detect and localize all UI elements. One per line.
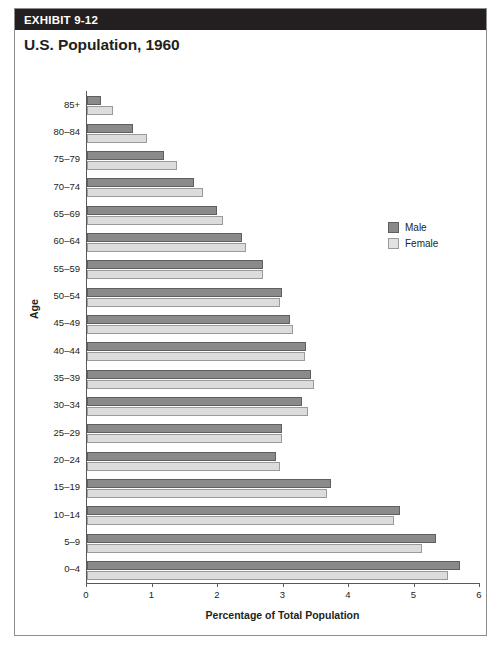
x-axis-tick: [217, 583, 218, 587]
y-axis-tick-label: 25–29: [54, 428, 80, 438]
bar-male: [87, 424, 282, 433]
y-axis-tick-label: 0–4: [64, 564, 80, 574]
y-axis-tick-label: 35–39: [54, 373, 80, 383]
y-axis-tick-label: 70–74: [54, 182, 80, 192]
x-axis-tick-label: 5: [411, 589, 416, 600]
x-axis-tick: [86, 583, 87, 587]
y-axis-tick-label: 15–19: [54, 482, 80, 492]
bar-male: [87, 233, 242, 242]
legend-label: Male: [405, 223, 427, 233]
bar-group: [87, 474, 479, 501]
bar-male: [87, 397, 302, 406]
plot-area: 0–45–910–1415–1920–2425–2930–3435–3940–4…: [86, 91, 479, 583]
x-axis-tick-label: 6: [476, 589, 481, 600]
bar-female: [87, 270, 263, 279]
legend-swatch-icon: [388, 238, 399, 249]
y-axis-title: Age: [28, 299, 40, 319]
y-axis-tick-label: 20–24: [54, 455, 80, 465]
bar-male: [87, 288, 282, 297]
x-axis-tick: [348, 583, 349, 587]
y-axis-tick-label: 75–79: [54, 154, 80, 164]
bar-female: [87, 161, 177, 170]
bar-group: [87, 446, 479, 473]
legend-item: Female: [388, 238, 438, 249]
chart-legend: MaleFemale: [388, 222, 438, 254]
bar-group: [87, 501, 479, 528]
bar-group: [87, 255, 479, 282]
bar-male: [87, 206, 217, 215]
y-axis-tick-label: 85+: [64, 100, 80, 110]
x-axis-tick-label: 3: [280, 589, 285, 600]
bar-female: [87, 298, 280, 307]
bar-male: [87, 370, 311, 379]
bar-group: [87, 91, 479, 118]
y-axis-tick-label: 50–54: [54, 291, 80, 301]
x-axis-title: Percentage of Total Population: [86, 609, 479, 621]
x-axis-tick: [414, 583, 415, 587]
bar-male: [87, 534, 436, 543]
bar-female: [87, 407, 308, 416]
bar-group: [87, 146, 479, 173]
bar-group: [87, 392, 479, 419]
y-axis-tick-label: 55–59: [54, 264, 80, 274]
bar-group: [87, 310, 479, 337]
bar-group: [87, 337, 479, 364]
x-axis-tick: [152, 583, 153, 587]
y-axis-tick-label: 5–9: [64, 537, 80, 547]
legend-label: Female: [405, 239, 438, 249]
bar-group: [87, 419, 479, 446]
bar-male: [87, 479, 331, 488]
bar-female: [87, 325, 293, 334]
chart-plot-wrapper: 0–45–910–1415–1920–2425–2930–3435–3940–4…: [15, 9, 486, 635]
bar-male: [87, 452, 276, 461]
bar-male: [87, 151, 164, 160]
bar-female: [87, 352, 305, 361]
bar-group: [87, 528, 479, 555]
bar-female: [87, 516, 394, 525]
bar-female: [87, 106, 113, 115]
bar-male: [87, 178, 194, 187]
bar-female: [87, 544, 422, 553]
bar-male: [87, 561, 460, 570]
bar-group: [87, 173, 479, 200]
bar-male: [87, 96, 101, 105]
exhibit-card: EXHIBIT 9-12 U.S. Population, 1960 0–45–…: [14, 8, 487, 636]
x-axis-tick-label: 2: [214, 589, 219, 600]
y-axis-tick-label: 30–34: [54, 400, 80, 410]
bar-female: [87, 380, 314, 389]
bar-group: [87, 118, 479, 145]
bar-female: [87, 489, 327, 498]
y-axis-tick-label: 80–84: [54, 127, 80, 137]
bar-male: [87, 506, 400, 515]
bar-group: [87, 282, 479, 309]
bar-male: [87, 260, 263, 269]
y-axis-tick-label: 65–69: [54, 209, 80, 219]
bar-male: [87, 342, 306, 351]
bar-female: [87, 134, 147, 143]
bar-male: [87, 124, 133, 133]
x-axis-tick-label: 4: [345, 589, 350, 600]
bar-female: [87, 434, 282, 443]
bar-female: [87, 216, 223, 225]
bar-male: [87, 315, 290, 324]
x-axis-tick-label: 0: [83, 589, 88, 600]
bar-female: [87, 243, 246, 252]
x-axis-tick: [283, 583, 284, 587]
legend-item: Male: [388, 222, 438, 233]
bar-group: [87, 556, 479, 583]
x-axis-tick-label: 1: [149, 589, 154, 600]
y-axis-tick-label: 40–44: [54, 346, 80, 356]
bar-group: [87, 364, 479, 391]
y-axis-tick-label: 60–64: [54, 236, 80, 246]
bar-female: [87, 462, 280, 471]
x-axis-tick: [479, 583, 480, 587]
legend-swatch-icon: [388, 222, 399, 233]
bar-female: [87, 571, 448, 580]
y-axis-tick-label: 10–14: [54, 510, 80, 520]
y-axis-tick-label: 45–49: [54, 318, 80, 328]
bar-female: [87, 188, 203, 197]
